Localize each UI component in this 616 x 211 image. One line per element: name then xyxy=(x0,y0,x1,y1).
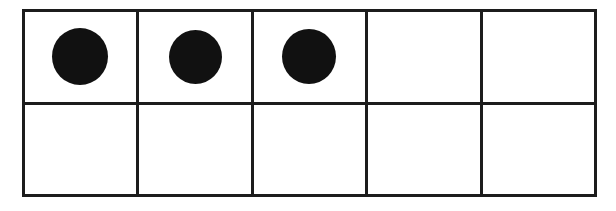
ten-frame-cell-r2-c4[interactable] xyxy=(368,105,482,198)
ten-frame-cell-r2-c3[interactable] xyxy=(254,105,368,198)
ten-frame-cell-r1-c4[interactable] xyxy=(368,12,482,105)
ten-frame-cell-r1-c3[interactable] xyxy=(254,12,368,105)
ten-frame-cell-r2-c2[interactable] xyxy=(139,105,253,198)
counter-dot-icon xyxy=(52,28,108,85)
counter-dot-icon xyxy=(169,30,222,84)
ten-frame-cell-r1-c2[interactable] xyxy=(139,12,253,105)
ten-frame-grid xyxy=(22,9,597,197)
ten-frame-cell-r1-c5[interactable] xyxy=(483,12,597,105)
ten-frame-cell-r2-c1[interactable] xyxy=(25,105,139,198)
counter-dot-icon xyxy=(282,29,336,84)
ten-frame-cell-r2-c5[interactable] xyxy=(483,105,597,198)
ten-frame-canvas xyxy=(0,0,616,211)
ten-frame-cell-r1-c1[interactable] xyxy=(25,12,139,105)
